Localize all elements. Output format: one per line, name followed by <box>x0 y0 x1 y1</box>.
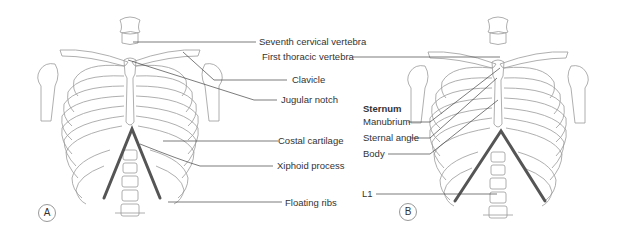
costal-margin-b <box>455 131 545 201</box>
label-xiphoid-process: Xiphoid process <box>277 161 345 171</box>
label-floating-ribs: Floating ribs <box>285 198 337 208</box>
label-body: Body <box>363 149 385 159</box>
costal-margin-a <box>104 129 160 198</box>
label-manubrium: Manubrium <box>363 117 411 127</box>
label-seventh-cervical-vertebra: Seventh cervical vertebra <box>259 37 366 47</box>
label-first-thoracic-vertebra: First thoracic vertebra <box>262 52 354 62</box>
label-sternal-angle: Sternal angle <box>363 133 419 143</box>
panel-marker-a: A <box>38 204 56 222</box>
label-l1: L1 <box>362 189 373 199</box>
label-jugular-notch: Jugular notch <box>281 95 338 105</box>
thorax-skeleton-a <box>38 17 223 216</box>
label-costal-cartilage: Costal cartilage <box>278 136 343 146</box>
label-clavicle: Clavicle <box>292 75 325 85</box>
panel-marker-b: B <box>399 203 417 221</box>
rib-cage-diagram: Seventh cervical vertebra Clavicle Jugul… <box>0 0 626 238</box>
thorax-skeleton-b <box>408 17 589 218</box>
label-sternum-heading: Sternum <box>363 104 402 114</box>
